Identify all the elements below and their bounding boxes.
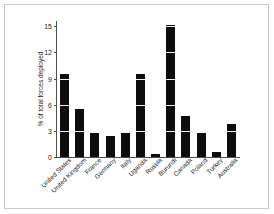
y-tick-label: 12	[44, 49, 52, 56]
y-tick-mark	[54, 157, 57, 158]
y-tick-label: 15	[44, 23, 52, 30]
plot-area: % of total forces deployed 03691215 Unit…	[57, 21, 239, 157]
y-tick-label: 9	[48, 75, 52, 82]
gridline	[57, 79, 239, 80]
y-axis-title: % of total forces deployed	[38, 52, 45, 127]
y-tick-label: 0	[48, 154, 52, 161]
gridline	[57, 52, 239, 53]
chart-figure: % of total forces deployed 03691215 Unit…	[0, 0, 274, 214]
gridline	[57, 131, 239, 132]
gridline	[57, 105, 239, 106]
gridline	[57, 26, 239, 27]
y-tick-label: 3	[48, 127, 52, 134]
gridlines	[57, 21, 239, 157]
y-tick-label: 6	[48, 101, 52, 108]
